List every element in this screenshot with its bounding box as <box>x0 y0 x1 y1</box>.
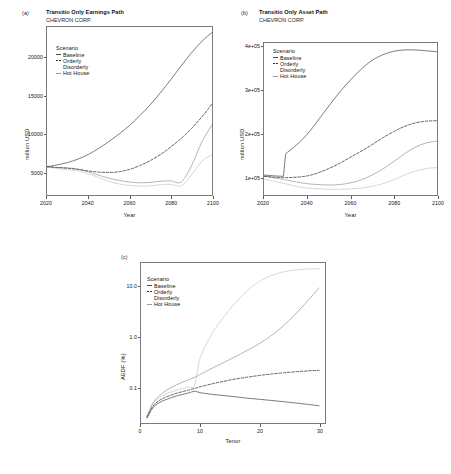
series-line-orderly <box>147 370 319 417</box>
y-tick-label: 15000 <box>20 93 43 99</box>
legend-swatch-solid-icon <box>56 70 62 76</box>
legend-swatch-solid-icon <box>56 52 62 58</box>
series-line-hot-house <box>47 125 212 183</box>
legend-swatch-solid-icon <box>273 73 279 79</box>
y-tick-mark <box>44 96 47 97</box>
x-tick-mark <box>140 424 141 427</box>
x-tick-label: 10 <box>188 428 212 434</box>
panel-c-xlabel: Tenor <box>140 438 326 444</box>
y-tick-label: 10000 <box>20 131 43 137</box>
y-tick-label: 4e+05 <box>237 43 260 49</box>
panel-c-legend: ScenarioBaselineOrderlyDisorderlyHot Hou… <box>147 276 180 307</box>
series-line-orderly <box>47 104 212 172</box>
x-tick-label: 2020 <box>251 200 275 206</box>
x-tick-mark <box>320 424 321 427</box>
panel-c-tag: (c) <box>121 254 128 260</box>
panel-b-legend: ScenarioBaselineOrderlyDisorderlyHot Hou… <box>273 48 306 79</box>
series-line-baseline <box>147 391 319 418</box>
panel-b: (b) Transitio Only Asset Path CHEVRON CO… <box>225 0 451 240</box>
panel-c: (c) AEDF (%) ScenarioBaselineOrderlyDiso… <box>100 248 351 466</box>
x-tick-mark <box>307 196 308 199</box>
panel-a-legend: ScenarioBaselineOrderlyDisorderlyHot Hou… <box>56 45 89 76</box>
x-tick-mark <box>171 196 172 199</box>
x-tick-label: 0 <box>128 428 152 434</box>
legend-swatch-solid-icon <box>56 64 62 70</box>
x-tick-mark <box>213 196 214 199</box>
series-line-hot-house <box>264 141 437 185</box>
panel-a-xlabel: Year <box>46 212 213 218</box>
x-tick-label: 2080 <box>159 200 183 206</box>
panel-a: (a) Transitio Only Earnings Path CHEVRON… <box>0 0 226 240</box>
legend-item-label: Hot House <box>154 301 180 307</box>
y-tick-label: 20000 <box>20 54 43 60</box>
x-tick-mark <box>260 424 261 427</box>
figure-root: (a) Transitio Only Earnings Path CHEVRON… <box>0 0 451 474</box>
x-tick-label: 2100 <box>201 200 225 206</box>
y-tick-label: 10.0 <box>114 283 137 289</box>
x-tick-label: 2060 <box>339 200 363 206</box>
legend-swatch-solid-icon <box>147 283 153 289</box>
legend-swatch-dashed-icon <box>147 289 153 295</box>
x-tick-label: 2040 <box>295 200 319 206</box>
panel-a-title: Transitio Only Earnings Path <box>46 9 124 15</box>
x-tick-mark <box>130 196 131 199</box>
series-line-disorderly <box>264 168 437 190</box>
y-tick-mark <box>261 134 264 135</box>
panel-b-subtitle: CHEVRON CORP. <box>259 17 304 23</box>
legend-item-hot-house[interactable]: Hot House <box>273 73 306 79</box>
x-tick-mark <box>263 196 264 199</box>
y-tick-mark <box>44 57 47 58</box>
legend-item-label: Hot House <box>280 73 306 79</box>
panel-a-tag: (a) <box>22 10 29 16</box>
x-tick-mark <box>438 196 439 199</box>
x-tick-mark <box>88 196 89 199</box>
x-tick-label: 2060 <box>118 200 142 206</box>
panel-b-xlabel: Year <box>263 212 438 218</box>
legend-item-hot-house[interactable]: Hot House <box>147 301 180 307</box>
panel-c-ylabel: AEDF (%) <box>120 353 126 380</box>
x-tick-mark <box>394 196 395 199</box>
legend-title: Scenario <box>273 48 306 54</box>
x-tick-mark <box>200 424 201 427</box>
y-tick-mark <box>261 90 264 91</box>
x-tick-label: 2100 <box>426 200 450 206</box>
y-tick-label: 2e+05 <box>237 131 260 137</box>
legend-item-hot-house[interactable]: Hot House <box>56 70 89 76</box>
legend-item-label: Hot House <box>63 70 89 76</box>
legend-swatch-solid-icon <box>273 55 279 61</box>
y-tick-mark <box>138 286 141 287</box>
y-tick-mark <box>138 337 141 338</box>
legend-swatch-solid-icon <box>147 295 153 301</box>
legend-swatch-dashed-icon <box>56 58 62 64</box>
x-tick-mark <box>351 196 352 199</box>
y-tick-mark <box>261 178 264 179</box>
y-tick-label: 1e+05 <box>237 175 260 181</box>
legend-title: Scenario <box>56 45 89 51</box>
y-tick-label: 3e+05 <box>237 87 260 93</box>
y-tick-mark <box>138 388 141 389</box>
x-tick-label: 20 <box>248 428 272 434</box>
legend-swatch-solid-icon <box>273 67 279 73</box>
y-tick-label: 0.1 <box>114 385 137 391</box>
x-tick-mark <box>46 196 47 199</box>
y-tick-label: 1.0 <box>114 334 137 340</box>
legend-swatch-solid-icon <box>147 301 153 307</box>
y-tick-label: 5000 <box>20 170 43 176</box>
x-tick-label: 2020 <box>34 200 58 206</box>
legend-title: Scenario <box>147 276 180 282</box>
y-tick-mark <box>44 134 47 135</box>
panel-b-tag: (b) <box>241 10 248 16</box>
panel-b-title: Transitio Only Asset Path <box>259 9 328 15</box>
legend-swatch-dashed-icon <box>273 61 279 67</box>
panel-a-subtitle: CHEVRON CORP. <box>46 17 91 23</box>
x-tick-label: 30 <box>308 428 332 434</box>
x-tick-label: 2040 <box>76 200 100 206</box>
series-line-disorderly <box>47 155 212 187</box>
y-tick-mark <box>261 46 264 47</box>
x-tick-label: 2080 <box>382 200 406 206</box>
y-tick-mark <box>44 173 47 174</box>
